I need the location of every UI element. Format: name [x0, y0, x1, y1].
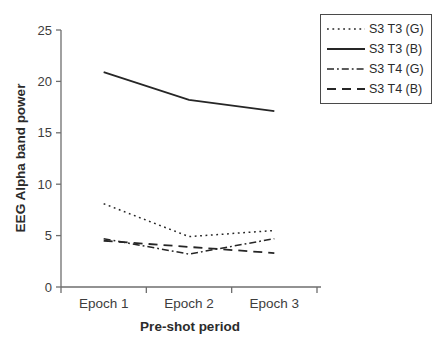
- svg-text:25: 25: [38, 23, 52, 38]
- svg-text:15: 15: [38, 125, 52, 140]
- x-axis-label: Pre-shot period: [140, 319, 240, 334]
- dotted-line-sample-icon: [327, 24, 365, 34]
- legend-item: S3 T4 (G): [327, 59, 426, 79]
- svg-text:0: 0: [45, 280, 52, 295]
- dashed-line-sample-icon: [327, 84, 365, 94]
- svg-text:20: 20: [38, 74, 52, 89]
- legend-item: S3 T4 (B): [327, 79, 426, 99]
- legend-item-label: S3 T3 (B): [369, 42, 422, 56]
- dashdot-line-sample-icon: [327, 64, 365, 74]
- svg-text:5: 5: [45, 228, 52, 243]
- svg-text:Epoch 1: Epoch 1: [79, 296, 129, 311]
- figure: 0510152025Epoch 1Epoch 2Epoch 3 EEG Alph…: [0, 0, 437, 349]
- solid-line-sample-icon: [327, 44, 365, 54]
- legend: S3 T3 (G) S3 T3 (B) S3 T4 (G) S3 T4 (B): [320, 14, 432, 104]
- y-axis-label: EEG Alpha band power: [13, 84, 28, 233]
- svg-text:10: 10: [38, 177, 52, 192]
- legend-item: S3 T3 (G): [327, 19, 426, 39]
- legend-item-label: S3 T3 (G): [369, 22, 424, 36]
- svg-text:Epoch 2: Epoch 2: [164, 296, 214, 311]
- legend-item-label: S3 T4 (G): [369, 62, 424, 76]
- legend-item-label: S3 T4 (B): [369, 82, 422, 96]
- legend-item: S3 T3 (B): [327, 39, 426, 59]
- svg-text:Epoch 3: Epoch 3: [250, 296, 300, 311]
